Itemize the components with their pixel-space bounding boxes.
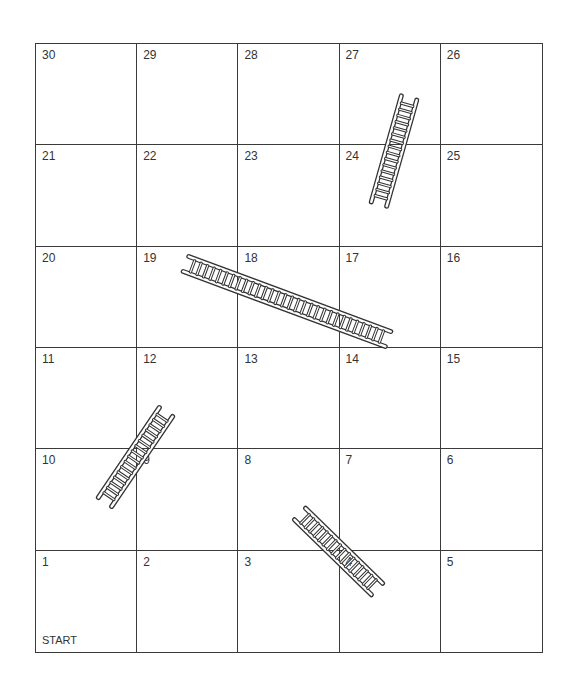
game-board: 3029282726212223242520191817161112131415… (35, 43, 543, 653)
board-square-18[interactable]: 18 (238, 247, 339, 348)
board-square-23[interactable]: 23 (238, 145, 339, 246)
board-square-14[interactable]: 14 (340, 348, 441, 449)
board-square-6[interactable]: 6 (441, 449, 542, 550)
board-square-8[interactable]: 8 (238, 449, 339, 550)
board-square-7[interactable]: 7 (340, 449, 441, 550)
square-number: 15 (447, 352, 460, 366)
board-square-16[interactable]: 16 (441, 247, 542, 348)
square-number: 19 (143, 251, 156, 265)
board-square-2[interactable]: 2 (137, 551, 238, 652)
square-number: 12 (143, 352, 156, 366)
square-number: 28 (244, 48, 257, 62)
square-number: 23 (244, 149, 257, 163)
square-number: 24 (346, 149, 359, 163)
board-square-11[interactable]: 11 (36, 348, 137, 449)
board-square-25[interactable]: 25 (441, 145, 542, 246)
board-square-22[interactable]: 22 (137, 145, 238, 246)
board-square-24[interactable]: 24 (340, 145, 441, 246)
board-square-28[interactable]: 28 (238, 44, 339, 145)
square-number: 6 (447, 453, 454, 467)
square-number: 25 (447, 149, 460, 163)
square-number: 18 (244, 251, 257, 265)
square-number: 1 (42, 555, 49, 569)
board-square-3[interactable]: 3 (238, 551, 339, 652)
board-square-10[interactable]: 10 (36, 449, 137, 550)
square-number: 2 (143, 555, 150, 569)
board-square-17[interactable]: 17 (340, 247, 441, 348)
board-square-29[interactable]: 29 (137, 44, 238, 145)
board-square-1[interactable]: 1START (36, 551, 137, 652)
square-number: 30 (42, 48, 55, 62)
board-square-30[interactable]: 30 (36, 44, 137, 145)
board-square-20[interactable]: 20 (36, 247, 137, 348)
square-number: 27 (346, 48, 359, 62)
square-number: 29 (143, 48, 156, 62)
board-square-21[interactable]: 21 (36, 145, 137, 246)
square-number: 5 (447, 555, 454, 569)
square-number: 14 (346, 352, 359, 366)
square-number: 7 (346, 453, 353, 467)
square-number: 9 (143, 453, 150, 467)
board-square-26[interactable]: 26 (441, 44, 542, 145)
square-number: 21 (42, 149, 55, 163)
board-square-9[interactable]: 9 (137, 449, 238, 550)
square-number: 26 (447, 48, 460, 62)
square-number: 16 (447, 251, 460, 265)
square-number: 3 (244, 555, 251, 569)
board-square-13[interactable]: 13 (238, 348, 339, 449)
square-number: 20 (42, 251, 55, 265)
board-square-5[interactable]: 5 (441, 551, 542, 652)
square-number: 22 (143, 149, 156, 163)
board-square-19[interactable]: 19 (137, 247, 238, 348)
square-number: 10 (42, 453, 55, 467)
board-square-15[interactable]: 15 (441, 348, 542, 449)
square-number: 11 (42, 352, 54, 366)
square-number: 17 (346, 251, 359, 265)
square-number: 8 (244, 453, 251, 467)
board-square-4[interactable]: 4 (340, 551, 441, 652)
square-number: 4 (346, 555, 353, 569)
board-square-12[interactable]: 12 (137, 348, 238, 449)
board-square-27[interactable]: 27 (340, 44, 441, 145)
start-label: START (42, 634, 77, 646)
square-number: 13 (244, 352, 257, 366)
